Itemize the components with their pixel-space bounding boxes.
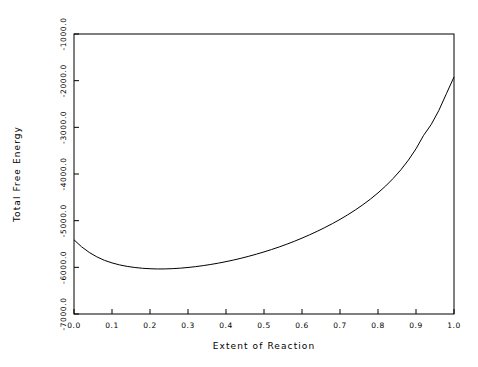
y-axis-tick-labels: -7000.0-6000.0-5000.0-4000.0-3000.0-2000… <box>59 17 68 330</box>
y-tick-label: -5000.0 <box>59 204 68 237</box>
y-tick-label: -7000.0 <box>59 297 68 330</box>
x-tick-label: 0.7 <box>333 321 347 330</box>
figure-background <box>0 0 478 367</box>
y-tick-label: -1000.0 <box>59 17 68 50</box>
x-tick-label: 0.2 <box>143 321 157 330</box>
y-tick-label: -2000.0 <box>59 64 68 97</box>
y-axis-title: Total Free Energy <box>12 126 22 223</box>
y-tick-label: -4000.0 <box>59 157 68 190</box>
x-tick-label: 0.1 <box>105 321 119 330</box>
x-axis-title: Extent of Reaction <box>213 341 316 351</box>
x-tick-label: 1.0 <box>447 321 461 330</box>
x-tick-label: 0.6 <box>295 321 309 330</box>
x-tick-label: 0.5 <box>257 321 271 330</box>
x-tick-label: 0.8 <box>371 321 385 330</box>
free-energy-line-chart: 0.00.10.20.30.40.50.60.70.80.91.0 -7000.… <box>0 0 478 367</box>
x-tick-label: 0.4 <box>219 321 233 330</box>
x-tick-label: 0.9 <box>409 321 423 330</box>
y-tick-label: -3000.0 <box>59 111 68 144</box>
y-tick-label: -6000.0 <box>59 251 68 284</box>
chart-figure: 0.00.10.20.30.40.50.60.70.80.91.0 -7000.… <box>0 0 478 367</box>
x-tick-label: 0.3 <box>181 321 195 330</box>
x-tick-label: 0.0 <box>67 321 81 330</box>
